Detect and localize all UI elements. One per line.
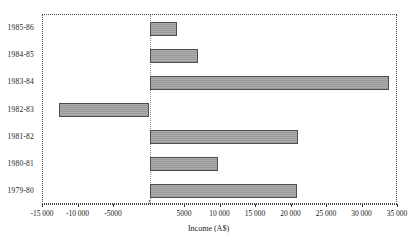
y-axis-tick-label: 1985-86 (0, 23, 34, 32)
y-axis-tick-label: 1983-84 (0, 77, 34, 86)
bar (150, 76, 389, 90)
plot-area (42, 14, 397, 204)
x-axis-tick-label: -5000 (83, 209, 143, 218)
bar (59, 103, 150, 117)
y-axis-tick-label: 1982-83 (0, 105, 34, 114)
x-axis-tick (326, 204, 327, 207)
bar (150, 184, 298, 198)
y-axis-tick-label: 1980-81 (0, 159, 34, 168)
x-axis-tick (42, 204, 43, 207)
x-axis-tick (291, 204, 292, 207)
x-axis-title: Income (A$) (0, 224, 417, 234)
x-axis-tick (220, 204, 221, 207)
y-axis-tick-label: 1979-80 (0, 186, 34, 195)
x-axis-tick (113, 204, 114, 207)
x-axis-tick (184, 204, 185, 207)
x-axis-tick-label: 35 000 (367, 209, 417, 218)
x-axis-tick (149, 200, 150, 204)
x-axis-tick (78, 204, 79, 207)
x-axis-tick (362, 204, 363, 207)
bar (150, 157, 218, 171)
x-axis-tick (255, 204, 256, 207)
bar (150, 22, 178, 36)
zero-reference-line (150, 15, 151, 203)
x-axis-tick (397, 204, 398, 207)
bar (150, 130, 298, 144)
bar-chart: 1985-861984-851983-841982-831981-821980-… (0, 0, 417, 241)
bar (150, 49, 199, 63)
y-axis-tick-label: 1984-85 (0, 50, 34, 59)
y-axis-tick-label: 1981-82 (0, 132, 34, 141)
